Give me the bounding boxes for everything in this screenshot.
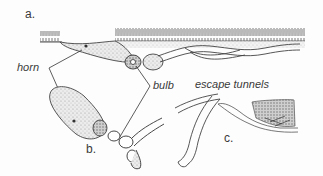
bulb-b [108,118,164,169]
bulb-a [125,54,163,70]
panel-label-c: c. [224,132,233,144]
annotation-horn: horn [17,62,39,73]
horn-chamber-b [50,87,107,139]
panel-label-a: a. [25,8,35,20]
annotation-bulb: bulb [153,80,174,91]
burrow-diagram: a. horn bulb escape tunnels b. c. [0,0,323,176]
panel-label-b: b. [86,143,96,155]
panel-c-diagram [218,100,298,133]
annotation-escape-tunnels: escape tunnels [195,79,269,90]
escape-tunnels-vertical [175,94,220,167]
